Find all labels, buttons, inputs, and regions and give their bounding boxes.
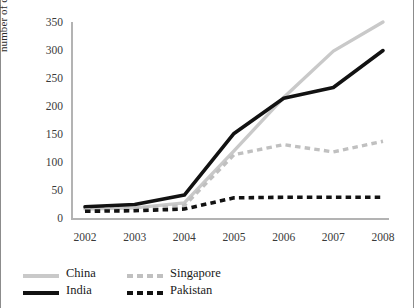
legend-label: Singapore: [170, 267, 221, 280]
legend-label: India: [66, 284, 92, 297]
y-tick-label: 0: [23, 212, 63, 224]
x-tick-label: 2004: [161, 231, 207, 243]
legend-item-india: India: [23, 284, 127, 297]
chart-legend: China Singapore India Pakistan: [23, 265, 283, 299]
chart-series-svg: [71, 18, 389, 226]
series-line-china: [85, 22, 383, 209]
legend-label: China: [66, 267, 96, 280]
legend-label: Pakistan: [170, 284, 212, 297]
solid-dark-line-swatch: [23, 285, 59, 297]
y-axis-tick-labels: 050100150200250300350: [23, 18, 69, 226]
plot-area: [71, 18, 389, 226]
x-tick-label: 2002: [62, 231, 108, 243]
x-tick-label: 2005: [211, 231, 257, 243]
x-tick-label: 2008: [360, 231, 406, 243]
series-line-india: [85, 51, 383, 207]
y-tick-label: 50: [23, 184, 63, 196]
legend-row: China Singapore: [23, 265, 283, 282]
legend-row: India Pakistan: [23, 282, 283, 299]
y-tick-label: 100: [23, 156, 63, 168]
solid-light-line-swatch: [23, 268, 59, 280]
x-tick-label: 2006: [261, 231, 307, 243]
y-tick-label: 200: [23, 100, 63, 112]
x-tick-label: 2003: [112, 231, 158, 243]
dashed-light-line-swatch: [127, 268, 163, 280]
y-axis-title: number of clinical trials registered: [0, 0, 9, 52]
dashed-dark-line-swatch: [127, 285, 163, 297]
legend-item-china: China: [23, 267, 127, 280]
legend-item-pakistan: Pakistan: [127, 284, 212, 297]
y-tick-label: 150: [23, 128, 63, 140]
y-tick-label: 350: [23, 16, 63, 28]
x-axis-tick-labels: 2002200320042005200620072008: [71, 231, 389, 251]
x-tick-label: 2007: [310, 231, 356, 243]
chart-figure: number of clinical trials registered 050…: [0, 0, 414, 308]
legend-item-singapore: Singapore: [127, 267, 221, 280]
y-tick-label: 300: [23, 44, 63, 56]
y-tick-label: 250: [23, 72, 63, 84]
